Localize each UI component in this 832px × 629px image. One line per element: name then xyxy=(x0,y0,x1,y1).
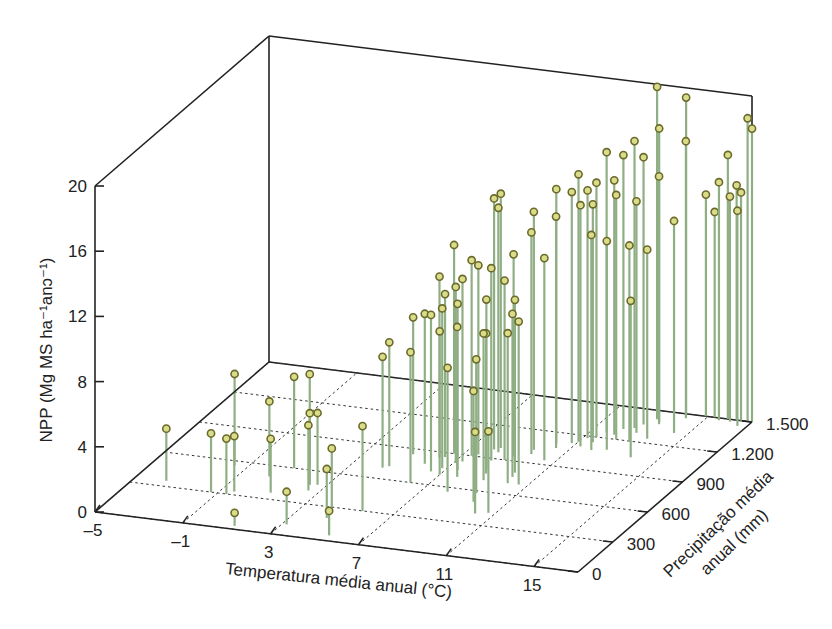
data-marker xyxy=(683,94,690,101)
data-marker xyxy=(575,171,582,178)
x-tick-label: 15 xyxy=(523,576,542,595)
data-marker xyxy=(553,186,560,193)
x-tick-label: 3 xyxy=(264,543,273,562)
data-marker xyxy=(267,435,274,442)
data-marker xyxy=(483,296,490,303)
data-marker xyxy=(640,154,647,161)
data-marker xyxy=(748,125,755,132)
y-tick-label: 0 xyxy=(592,565,601,584)
data-marker xyxy=(314,409,321,416)
back-top-edge xyxy=(269,36,752,96)
data-marker xyxy=(528,229,535,236)
z-tick-label: 8 xyxy=(78,373,87,392)
data-marker xyxy=(726,193,733,200)
data-marker xyxy=(427,311,434,318)
data-marker xyxy=(568,188,575,195)
data-marker xyxy=(510,251,517,258)
data-marker xyxy=(454,300,461,307)
data-marker xyxy=(359,423,366,430)
data-marker xyxy=(283,488,290,495)
data-marker xyxy=(653,83,660,90)
data-marker xyxy=(444,364,451,371)
data-marker xyxy=(611,177,618,184)
data-marker xyxy=(584,187,591,194)
data-marker xyxy=(603,237,610,244)
data-marker xyxy=(488,265,495,272)
data-marker xyxy=(593,179,600,186)
data-marker xyxy=(291,373,298,380)
data-marker xyxy=(733,182,740,189)
data-marker xyxy=(306,410,313,417)
z-tick-label: 12 xyxy=(68,307,87,326)
data-marker xyxy=(644,246,651,253)
data-marker xyxy=(497,190,504,197)
y-tick xyxy=(568,571,578,572)
data-marker xyxy=(552,213,559,220)
floor-gridline-y xyxy=(165,452,648,512)
left-floor-edge xyxy=(95,362,269,512)
data-marker xyxy=(379,353,386,360)
z-axis-title: NPP (Mg MS ha⁻¹anↄ⁻¹) xyxy=(37,258,56,443)
data-marker xyxy=(495,204,502,211)
data-marker xyxy=(454,323,461,330)
z-tick-label: 16 xyxy=(68,242,87,261)
floor-gridline-x xyxy=(534,417,708,567)
data-marker xyxy=(577,202,584,209)
floor-gridline-x xyxy=(271,384,445,534)
data-marker xyxy=(724,151,731,158)
data-marker xyxy=(473,356,480,363)
floor-gridline-y xyxy=(199,422,682,482)
data-marker xyxy=(231,509,238,516)
data-marker xyxy=(207,430,214,437)
data-marker xyxy=(702,191,709,198)
data-marker xyxy=(386,339,393,346)
y-tick xyxy=(603,541,613,542)
data-marker xyxy=(530,208,537,215)
y-tick xyxy=(638,511,648,512)
data-marker xyxy=(436,273,443,280)
data-marker xyxy=(326,507,333,514)
x-tick-label: –1 xyxy=(171,532,190,551)
data-marker xyxy=(737,189,744,196)
data-marker xyxy=(223,435,230,442)
y-tick xyxy=(672,481,682,482)
data-marker xyxy=(468,257,475,264)
y-tick xyxy=(742,421,752,422)
data-marker xyxy=(410,314,417,321)
data-marker xyxy=(163,425,170,432)
data-marker xyxy=(711,208,718,215)
x-axis-title: Temperatura média anual (°C) xyxy=(224,559,453,602)
data-marker xyxy=(452,283,459,290)
data-marker xyxy=(541,255,548,262)
data-marker xyxy=(231,370,238,377)
data-marker xyxy=(682,138,689,145)
z-tick-label: 20 xyxy=(68,177,87,196)
x-axis-line xyxy=(95,512,578,572)
data-marker xyxy=(626,242,633,249)
left-top-edge xyxy=(95,36,269,186)
data-marker xyxy=(734,207,741,214)
floor-gridline-y xyxy=(269,362,752,422)
data-marker xyxy=(485,428,492,435)
data-marker xyxy=(655,173,662,180)
data-marker xyxy=(515,318,522,325)
data-marker xyxy=(613,191,620,198)
plot-area: 048121620–5–137111503006009001.2001.500T… xyxy=(0,0,832,629)
data-marker xyxy=(588,231,595,238)
data-marker xyxy=(509,310,516,317)
data-marker xyxy=(480,330,487,337)
data-marker xyxy=(627,297,634,304)
data-marker xyxy=(631,138,638,145)
data-marker xyxy=(231,433,238,440)
data-marker xyxy=(439,305,446,312)
data-marker xyxy=(620,151,627,158)
data-marker xyxy=(266,398,273,405)
z-tick-label: 4 xyxy=(78,438,87,457)
npp-3d-stem-chart: 048121620–5–137111503006009001.2001.500T… xyxy=(0,0,832,629)
data-marker xyxy=(589,201,596,208)
x-tick-label: –5 xyxy=(84,521,103,540)
y-tick-label: 900 xyxy=(696,475,724,494)
data-marker xyxy=(407,349,414,356)
data-marker xyxy=(470,387,477,394)
data-marker xyxy=(504,330,511,337)
